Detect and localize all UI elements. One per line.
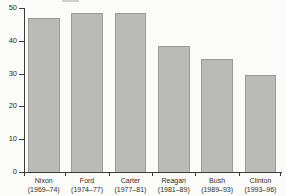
y-tick-label: 20 (2, 102, 17, 110)
category-name: Carter (109, 176, 152, 185)
bar (245, 75, 277, 172)
category-label: Bush(1989–93) (195, 176, 238, 194)
category-name: Nixon (22, 176, 65, 185)
y-tick-mark (19, 41, 24, 42)
bar (201, 59, 233, 172)
y-tick-label: 30 (2, 70, 17, 78)
y-tick-label: 50 (2, 4, 17, 12)
category-years: (1977–81) (109, 185, 152, 194)
y-tick-mark (19, 106, 24, 107)
y-tick-label: 0 (2, 168, 17, 176)
category-years: (1989–93) (195, 185, 238, 194)
y-tick-mark (19, 74, 24, 75)
y-tick-label: 10 (2, 135, 17, 143)
category-name: Bush (195, 176, 238, 185)
bar (71, 13, 103, 172)
bar (28, 18, 60, 172)
y-tick-mark (19, 8, 24, 9)
category-name: Reagan (152, 176, 195, 185)
category-label: Carter(1977–81) (109, 176, 152, 194)
y-tick-mark (19, 139, 24, 140)
bar-chart-figure: 01020304050Nixon(1969–74)Ford(1974–77)Ca… (0, 0, 286, 196)
category-label: Reagan(1981–89) (152, 176, 195, 194)
bar (158, 46, 190, 172)
cropped-text-fragment (62, 0, 79, 2)
bar (115, 13, 147, 172)
category-name: Ford (65, 176, 108, 185)
category-years: (1981–89) (152, 185, 195, 194)
y-axis (24, 8, 25, 172)
category-years: (1969–74) (22, 185, 65, 194)
category-label: Ford(1974–77) (65, 176, 108, 194)
category-years: (1993–96) (239, 185, 282, 194)
y-tick-label: 40 (2, 37, 17, 45)
category-name: Clinton (239, 176, 282, 185)
category-label: Clinton(1993–96) (239, 176, 282, 194)
category-years: (1974–77) (65, 185, 108, 194)
category-label: Nixon(1969–74) (22, 176, 65, 194)
